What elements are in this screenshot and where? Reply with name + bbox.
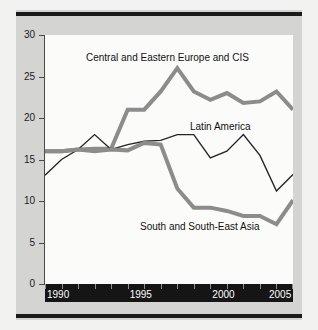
series-label-latin-america: Latin America	[190, 121, 251, 132]
series-line-0	[45, 68, 293, 151]
y-tick-mark-5	[39, 243, 45, 244]
y-tick-label-0: 0	[13, 279, 35, 289]
y-tick-25: 25	[10, 72, 35, 82]
x-tick-mark-1997	[161, 284, 162, 289]
y-tick-30: 30	[10, 30, 35, 40]
y-tick-label-15: 15	[13, 155, 35, 165]
series-label-south-and-south-east-asia: South and South-East Asia	[140, 221, 260, 232]
x-tick-mark-2000	[210, 284, 211, 289]
figure-bottom-rule	[16, 314, 302, 318]
y-tick-10: 10	[10, 196, 35, 206]
x-tick-mark-1993	[95, 284, 96, 289]
y-tick-label-5: 5	[13, 238, 35, 248]
x-tick-mark-2003	[260, 284, 261, 289]
y-tick-label-20: 20	[13, 113, 35, 123]
y-tick-15: 15	[10, 155, 35, 165]
y-tick-mark-30	[39, 35, 45, 36]
x-tick-mark-1990	[45, 284, 46, 289]
series-line-2	[45, 143, 293, 224]
y-tick-mark-15	[39, 160, 45, 161]
x-tick-mark-1994	[111, 284, 112, 289]
x-tick-mark-2002	[243, 284, 244, 289]
chart-page: 051015202530 1990199520002005 Central an…	[0, 0, 318, 330]
y-tick-mark-25	[39, 77, 45, 78]
x-tick-label-2005: 2005	[269, 289, 291, 300]
x-axis-band	[45, 284, 293, 302]
y-tick-0: 0	[10, 279, 35, 289]
y-tick-5: 5	[10, 238, 35, 248]
x-tick-mark-1995	[128, 284, 129, 289]
series-label-central-and-eastern-europe-and-cis: Central and Eastern Europe and CIS	[86, 52, 249, 63]
y-tick-mark-20	[39, 118, 45, 119]
y-tick-label-10: 10	[13, 196, 35, 206]
x-tick-mark-1998	[177, 284, 178, 289]
line-chart-svg	[45, 35, 293, 284]
y-tick-20: 20	[10, 113, 35, 123]
x-tick-mark-1999	[194, 284, 195, 289]
x-tick-label-1995: 1995	[130, 289, 152, 300]
figure-top-rule	[16, 12, 302, 16]
x-tick-label-2000: 2000	[212, 289, 234, 300]
plot-area	[45, 35, 293, 284]
y-tick-mark-10	[39, 201, 45, 202]
x-tick-mark-1992	[78, 284, 79, 289]
x-tick-mark-2005	[292, 284, 293, 289]
y-tick-label-25: 25	[13, 72, 35, 82]
y-tick-label-30: 30	[13, 30, 35, 40]
x-tick-label-1990: 1990	[47, 289, 69, 300]
